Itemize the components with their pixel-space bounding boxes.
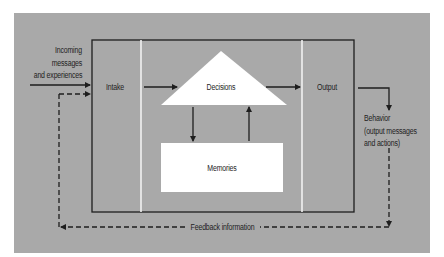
memories-label: Memories [197, 162, 246, 174]
incoming-label-line1: Incoming [55, 44, 82, 56]
behavior-label-line3: and actions) [364, 137, 400, 149]
output-to-behavior-arrow [358, 88, 389, 110]
feedback-label: Feedback information [188, 221, 258, 233]
output-label: Output [317, 81, 337, 93]
incoming-label-line2: messages [52, 57, 82, 69]
incoming-label-line3: and experiences [33, 69, 82, 81]
decisions-triangle [161, 51, 287, 105]
behavior-label-line2: (output messages [364, 125, 417, 137]
behavior-label-line1: Behavior [364, 112, 390, 124]
decisions-label: Decisions [196, 81, 245, 93]
diagram-canvas: Incoming messages and experiences Intake… [0, 0, 444, 257]
intake-label: Intake [106, 81, 124, 93]
